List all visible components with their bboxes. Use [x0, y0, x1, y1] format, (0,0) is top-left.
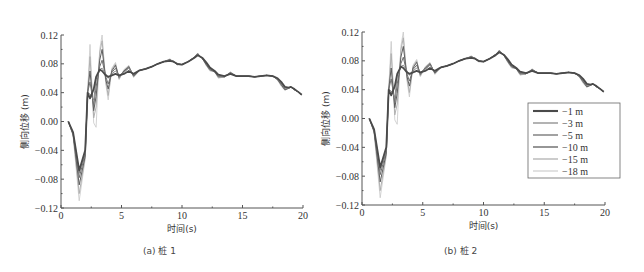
- chart-b-caption: (b) 桩 2: [444, 244, 477, 257]
- y-tick-label: 0.04: [342, 84, 360, 95]
- x-tick-label: 10: [479, 207, 489, 218]
- legend-entry: −18 m: [562, 166, 588, 177]
- x-tick-label: 20: [298, 210, 308, 221]
- chart-panel-a: 0.120.080.040.00−0.04−0.08−0.1205101520时…: [0, 0, 322, 272]
- y-tick-label: 0.12: [342, 27, 360, 38]
- x-tick-label: 20: [600, 207, 610, 218]
- x-tick-label: 0: [360, 207, 365, 218]
- x-axis-title: 时间(s): [167, 223, 197, 234]
- y-tick-label: 0.04: [41, 87, 59, 98]
- chart-a-caption: (a) 桩 1: [143, 244, 176, 257]
- y-tick-label: −0.04: [35, 145, 58, 156]
- y-axis-title: 侧向位移 (m): [320, 91, 331, 146]
- chart-b-plot: 0.120.080.040.00−0.04−0.08−0.1205101520时…: [320, 0, 644, 240]
- legend-entry: −15 m: [562, 154, 588, 165]
- y-tick-label: 0.08: [342, 55, 360, 66]
- y-tick-label: −0.12: [336, 200, 359, 211]
- series-line: [68, 55, 301, 170]
- legend: −1 m−3 m−5 m−10 m−15 m−18 m: [528, 103, 620, 178]
- y-tick-label: 0.00: [342, 113, 360, 124]
- y-tick-label: −0.08: [336, 171, 359, 182]
- x-tick-label: 10: [177, 210, 187, 221]
- x-tick-label: 15: [238, 210, 248, 221]
- y-tick-label: 0.08: [41, 58, 59, 69]
- chart-a-plot: 0.120.080.040.00−0.04−0.08−0.1205101520时…: [0, 0, 322, 240]
- y-tick-label: −0.12: [35, 203, 58, 214]
- legend-entry: −5 m: [562, 130, 583, 141]
- y-tick-label: 0.00: [41, 116, 59, 127]
- y-tick-label: 0.12: [41, 30, 59, 41]
- x-tick-label: 5: [119, 210, 124, 221]
- y-axis-title: 侧向位移 (m): [19, 94, 30, 149]
- legend-entry: −10 m: [562, 142, 588, 153]
- x-axis-title: 时间(s): [469, 220, 499, 231]
- legend-entry: −1 m: [562, 106, 583, 117]
- x-tick-label: 5: [420, 207, 425, 218]
- legend-entry: −3 m: [562, 118, 583, 129]
- y-tick-label: −0.04: [336, 142, 359, 153]
- x-tick-label: 15: [539, 207, 549, 218]
- chart-panel-b: 0.120.080.040.00−0.04−0.08−0.1205101520时…: [320, 0, 642, 272]
- y-tick-label: −0.08: [35, 174, 58, 185]
- x-tick-label: 0: [59, 210, 64, 221]
